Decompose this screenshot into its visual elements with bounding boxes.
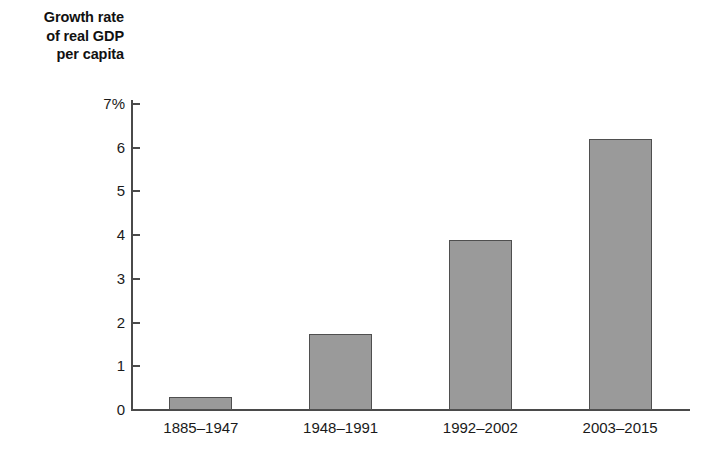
x-axis-category-label: 1992–2002: [410, 419, 550, 436]
bar: [309, 334, 372, 411]
bar: [169, 397, 232, 410]
bar: [449, 240, 512, 410]
bar: [589, 139, 652, 410]
x-axis-category-label: 1948–1991: [271, 419, 411, 436]
x-axis-category-label: 2003–2015: [550, 419, 690, 436]
x-axis-category-label: 1885–1947: [131, 419, 271, 436]
bars-layer: [0, 0, 724, 466]
bar-chart-figure: Growth rate of real GDP per capita 01234…: [0, 0, 724, 466]
